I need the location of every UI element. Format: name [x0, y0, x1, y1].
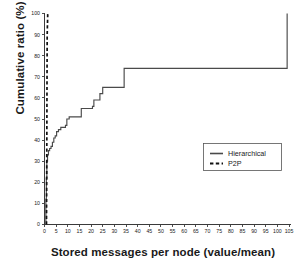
x-tick-label: 95 [263, 228, 269, 234]
chart-legend: Hierarchical P2P [204, 144, 282, 171]
x-tick-label: 30 [111, 228, 117, 234]
chart-figure: 0102030405060708090100 05101520253035404… [0, 0, 300, 268]
x-tick-label: 55 [170, 228, 176, 234]
y-tick-label: 70 [34, 74, 40, 80]
y-tick-label: 20 [34, 179, 40, 185]
x-tick-label: 15 [77, 228, 83, 234]
axes-group [45, 13, 292, 225]
data-series-group [45, 14, 287, 225]
x-tick-label: 25 [100, 228, 106, 234]
x-tick-label: 45 [146, 228, 152, 234]
x-tick-label: 10 [65, 228, 71, 234]
x-tick-label: 80 [228, 228, 234, 234]
x-tick-label: 0 [43, 228, 46, 234]
legend-label-p2p: P2P [228, 159, 242, 168]
x-tick-label: 85 [240, 228, 246, 234]
x-tick-label: 70 [205, 228, 211, 234]
y-tick-label: 30 [34, 158, 40, 164]
y-axis-title: Cumulative ratio (%) [14, 0, 34, 148]
x-tick-label: 60 [181, 228, 187, 234]
x-axis-ticks: 0510152025303540455055606570758085909510… [43, 225, 293, 235]
x-tick-label: 50 [158, 228, 164, 234]
x-tick-label: 90 [251, 228, 257, 234]
x-tick-label: 100 [273, 228, 282, 234]
y-tick-label: 50 [34, 116, 40, 122]
x-tick-label: 75 [216, 228, 222, 234]
x-tick-label: 5 [55, 228, 58, 234]
x-tick-label: 65 [193, 228, 199, 234]
x-tick-label: 20 [88, 228, 94, 234]
x-axis-title: Stored messages per node (value/mean) [36, 246, 290, 258]
chart-canvas: 0102030405060708090100 05101520253035404… [0, 0, 300, 268]
x-tick-label: 35 [123, 228, 129, 234]
x-tick-label: 40 [135, 228, 141, 234]
legend-label-hierarchical: Hierarchical [228, 149, 266, 158]
y-tick-label: 80 [34, 53, 40, 59]
y-tick-label: 60 [34, 95, 40, 101]
y-tick-label: 10 [34, 200, 40, 206]
y-tick-label: 0 [37, 221, 40, 227]
series-line-hierarchical [45, 14, 287, 225]
y-tick-label: 90 [34, 32, 40, 38]
y-tick-label: 40 [34, 137, 40, 143]
x-tick-label: 105 [285, 228, 294, 234]
